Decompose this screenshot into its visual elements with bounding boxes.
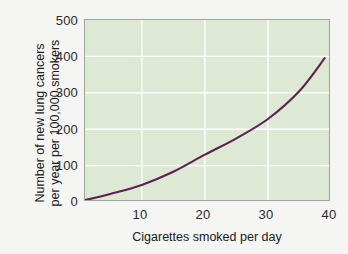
plot-area [84,19,330,201]
x-tick-label-10: 10 [133,207,148,222]
y-tick-label-0: 0 [44,194,78,209]
x-tick-label-20: 20 [196,207,211,222]
gridlines [85,20,330,201]
plot-svg [85,20,330,201]
y-tick-label-300: 300 [44,85,78,100]
y-tick-label-200: 200 [44,122,78,137]
y-tick-label-100: 100 [44,158,78,173]
y-tick-label-400: 400 [44,49,78,64]
x-tick-label-40: 40 [322,207,337,222]
x-tick-label-30: 30 [259,207,274,222]
lung-cancer-incidence-chart: Number of new lung cancers per year per … [0,0,348,254]
y-tick-label-500: 500 [44,13,78,28]
x-axis-title: Cigarettes smoked per day [84,230,330,244]
